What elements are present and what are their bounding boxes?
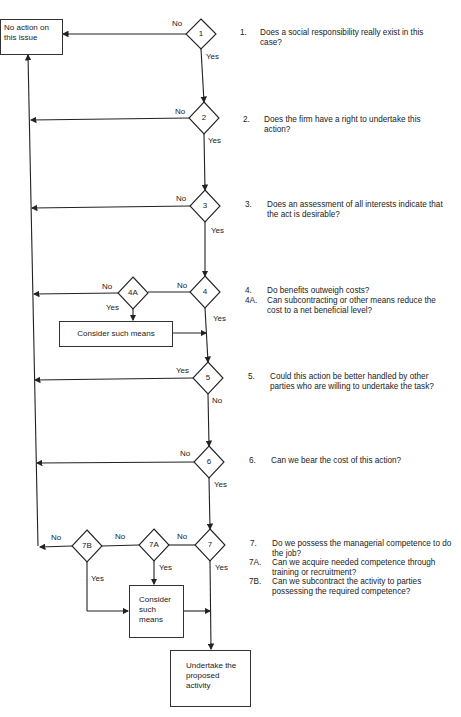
question-3-number: 3. (245, 200, 252, 210)
branch-5-yes: Yes (176, 366, 189, 375)
consider-means-7-text: Consider such means (139, 595, 175, 625)
question-4a-text: Can subcontracting or other means reduce… (267, 296, 447, 316)
decision-5-id: 5 (193, 373, 223, 383)
branch-2-no: No (175, 107, 185, 116)
branch-1-yes: Yes (206, 52, 219, 61)
question-4-number: 4. (245, 286, 252, 296)
question-2-text: Does the firm have a right to undertake … (264, 115, 434, 135)
undertake-terminal: Undertake the proposed activity (170, 650, 251, 707)
branch-7a-yes: Yes (159, 563, 172, 572)
branch-7-yes: Yes (215, 563, 228, 572)
branch-1-no: No (172, 19, 182, 28)
branch-3-no: No (176, 194, 186, 203)
flowchart-lines (0, 0, 461, 717)
decision-2-id: 2 (189, 113, 219, 123)
decision-7a-id: 7A (139, 540, 169, 550)
question-6-text: Can we bear the cost of this action? (271, 456, 461, 466)
no-action-text: No action on this issue (4, 23, 49, 42)
branch-5-no: No (212, 396, 222, 405)
branch-7b-yes: Yes (91, 574, 104, 583)
consider-means-box-4a: Consider such means (59, 321, 173, 347)
branch-2-yes: Yes (208, 136, 221, 145)
branch-7a-no: No (115, 532, 125, 541)
branch-6-yes: Yes (214, 480, 227, 489)
question-3-text: Does an assessment of all interests indi… (267, 200, 452, 220)
branch-4a-no: No (102, 282, 112, 291)
question-7b-number: 7B. (249, 577, 261, 587)
decision-4a-id: 4A (118, 288, 148, 298)
question-7a-number: 7A. (249, 558, 261, 568)
question-5-number: 5. (248, 372, 255, 382)
question-4a-number: 4A. (245, 296, 257, 306)
question-1-text: Does a social responsibility really exis… (260, 28, 440, 48)
question-5-text: Could this action be better handled by o… (270, 372, 450, 392)
decision-6-id: 6 (194, 457, 224, 467)
question-1-number: 1. (240, 28, 247, 38)
consider-means-4a-text: Consider such means (77, 329, 154, 338)
question-2-number: 2. (243, 115, 250, 125)
decision-4-id: 4 (190, 287, 220, 297)
decision-7b-id: 7B (72, 541, 102, 551)
no-action-terminal: No action on this issue (0, 19, 63, 55)
branch-7-no: No (177, 532, 187, 541)
branch-4a-yes: Yes (106, 303, 119, 312)
question-7-text: Do we possess the managerial competence … (272, 539, 452, 559)
branch-3-yes: Yes (211, 226, 224, 235)
branch-4-no: No (177, 281, 187, 290)
question-6-number: 6. (249, 456, 256, 466)
question-7-number: 7. (250, 539, 257, 549)
decision-1-id: 1 (186, 29, 216, 39)
branch-4-yes: Yes (213, 314, 226, 323)
branch-6-no: No (180, 449, 190, 458)
question-7b-text: Can we subcontract the activity to parti… (272, 577, 452, 597)
question-4-text: Do benefits outweigh costs? (267, 286, 452, 296)
question-7a-text: Can we acquire needed competence through… (272, 558, 460, 578)
decision-7-id: 7 (195, 540, 225, 550)
consider-means-box-7: Consider such means (129, 585, 184, 638)
branch-7b-no: No (51, 533, 61, 542)
decision-3-id: 3 (190, 201, 220, 211)
undertake-text: Undertake the proposed activity (186, 661, 244, 691)
